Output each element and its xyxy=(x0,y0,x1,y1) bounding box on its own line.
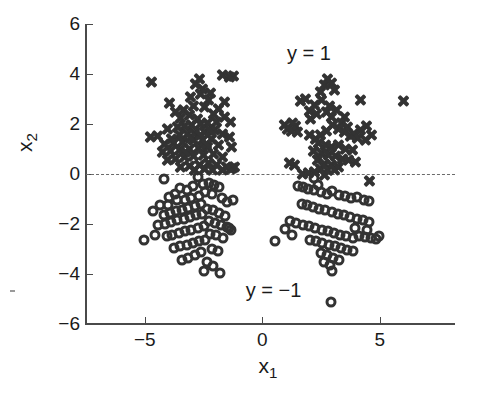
data-point-cross xyxy=(323,100,336,113)
y-tick-label: 4 xyxy=(69,64,80,83)
data-point-circle xyxy=(217,232,228,243)
x-tick-label: 5 xyxy=(374,330,385,349)
data-point-cross xyxy=(144,130,157,143)
data-point-cross xyxy=(161,153,174,166)
data-point-circle xyxy=(373,231,384,242)
data-point-circle xyxy=(308,172,319,183)
data-point-circle xyxy=(215,267,226,278)
data-point-cross xyxy=(174,161,187,174)
data-point-circle xyxy=(198,266,209,277)
y-tick-label: 0 xyxy=(69,164,80,183)
class-annotation-label: y = −1 xyxy=(246,280,302,300)
x-tick-label: 0 xyxy=(257,330,268,349)
data-point-circle xyxy=(169,242,180,253)
data-point-circle xyxy=(226,224,237,235)
data-point-circle xyxy=(147,206,158,217)
data-point-cross xyxy=(200,137,213,150)
data-point-cross xyxy=(204,125,217,138)
data-point-cross xyxy=(349,156,362,169)
data-point-circle xyxy=(348,246,359,257)
data-point-cross xyxy=(228,161,241,174)
data-point-circle xyxy=(270,236,281,247)
plot-area: y = 1y = −1 xyxy=(86,24,455,324)
data-point-cross xyxy=(353,94,366,107)
data-point-circle xyxy=(159,173,170,184)
data-point-circle xyxy=(138,234,149,245)
data-point-cross xyxy=(165,132,178,145)
data-point-cross xyxy=(397,95,410,108)
data-point-circle xyxy=(334,254,345,265)
data-point-circle xyxy=(176,254,187,265)
data-point-cross xyxy=(179,146,192,159)
y-tick-label: −4 xyxy=(58,264,80,283)
y-tick-label: 6 xyxy=(69,14,80,33)
data-point-circle xyxy=(361,224,372,235)
y-axis-label: x2 xyxy=(14,133,39,152)
data-point-circle xyxy=(153,220,164,231)
x-axis-label: x1 xyxy=(259,355,278,380)
data-point-cross xyxy=(145,75,158,88)
data-point-circle xyxy=(213,246,224,257)
data-point-cross xyxy=(284,125,297,138)
class-annotation-label: y = 1 xyxy=(287,43,331,63)
data-point-cross xyxy=(304,113,317,126)
data-point-cross xyxy=(327,83,340,96)
data-point-cross xyxy=(338,111,351,124)
y-tick-label: −2 xyxy=(58,214,80,233)
data-point-circle xyxy=(326,266,337,277)
y-tick-mark xyxy=(87,324,93,325)
y-tick-label: −6 xyxy=(58,314,80,333)
data-point-circle xyxy=(364,196,375,207)
data-point-cross xyxy=(363,175,376,188)
scatter-plot-figure: −6−4−20246 −505 y = 1y = −1 x2 x1 xyxy=(0,0,478,398)
data-point-circle xyxy=(325,297,336,308)
image-artifact-speck xyxy=(10,290,15,292)
data-point-circle xyxy=(279,223,290,234)
data-point-cross xyxy=(189,77,202,90)
data-point-cross xyxy=(218,96,231,109)
data-point-circle xyxy=(350,222,361,233)
data-point-cross xyxy=(223,70,236,83)
y-tick-label: 2 xyxy=(69,114,80,133)
x-tick-label: −5 xyxy=(134,330,156,349)
data-point-circle xyxy=(227,195,238,206)
decision-boundary-dashed-line xyxy=(86,174,455,175)
data-point-circle xyxy=(162,231,173,242)
